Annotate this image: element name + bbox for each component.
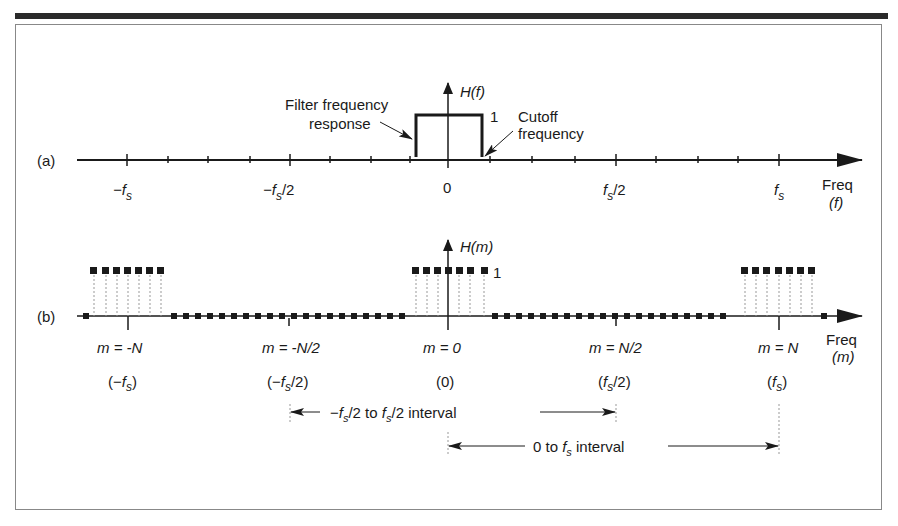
interval-positive-label: 0 to fs interval: [533, 438, 624, 458]
cutoff-annotation-line1: Cutoff: [518, 108, 559, 125]
tick-label-m-half-n: m = N/2: [589, 339, 643, 356]
tick-label-fs: fs: [774, 181, 784, 203]
panel-b-label: (b): [37, 308, 55, 325]
axis-b-ticks: [128, 316, 779, 330]
freq-label-zero: (0): [436, 373, 454, 390]
panel-b: (b) H(m) 1 m = -N m: [37, 238, 862, 394]
intervals: −fs/2 to fs/2 interval 0 to fs interval: [290, 404, 779, 458]
level-one-b: 1: [493, 264, 501, 281]
freq-unit-b: (m): [832, 348, 855, 365]
tick-label-m-neg-n: m = -N: [97, 339, 143, 356]
h-of-m-label: H(m): [460, 238, 493, 255]
filter-response-annotation-line1: Filter frequency: [285, 96, 389, 113]
h-of-f-label: H(f): [460, 83, 485, 100]
tick-label-zero: 0: [443, 179, 451, 196]
filter-diagram: (a) H(f) 1 Filter frequency: [0, 0, 898, 526]
panel-a-label: (a): [37, 152, 55, 169]
interval-symmetric-label: −fs/2 to fs/2 interval: [330, 404, 457, 424]
stems: [94, 271, 812, 316]
top-samples: [90, 267, 815, 274]
panel-a: (a) H(f) 1 Filter frequency: [37, 83, 862, 211]
freq-label-neg-fs: (−fs): [108, 373, 137, 394]
freq-label-neg-half-fs: (−fs/2): [267, 373, 308, 394]
tick-label-m-zero: m = 0: [423, 339, 462, 356]
tick-label-neg-half-fs: −fs/2: [263, 181, 294, 203]
freq-label-fs: (fs): [767, 373, 787, 394]
level-one-a: 1: [490, 108, 498, 125]
freq-title-b: Freq: [826, 331, 857, 348]
tick-label-m-neg-half-n: m = -N/2: [262, 339, 321, 356]
tick-label-m-n: m = N: [758, 339, 799, 356]
tick-label-neg-fs: −fs: [113, 181, 132, 203]
cutoff-pointer: [485, 131, 513, 156]
filter-response-pointer: [380, 122, 412, 139]
freq-unit-a: (f): [829, 194, 843, 211]
cutoff-annotation-line2: frequency: [518, 125, 584, 142]
tick-label-half-fs: fs/2: [603, 181, 626, 203]
freq-title-a: Freq: [822, 176, 853, 193]
freq-label-half-fs: (fs/2): [598, 373, 631, 394]
filter-response-annotation-line2: response: [309, 115, 371, 132]
filter-response-rect: [416, 115, 482, 157]
